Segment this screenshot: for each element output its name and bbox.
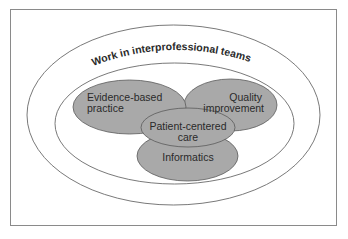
patient-centered-care-label-line2: care — [178, 131, 199, 143]
evidence-based-practice-label-line2: practice — [87, 102, 124, 114]
informatics-label: Informatics — [162, 151, 213, 163]
quality-improvement-label-line2: improvement — [203, 102, 264, 114]
diagram-canvas: Work in interprofessional teams Evidence… — [0, 0, 348, 239]
